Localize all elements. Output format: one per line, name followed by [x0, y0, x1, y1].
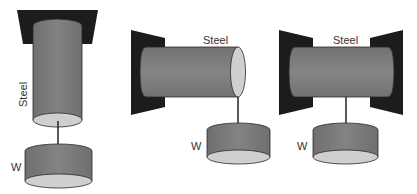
diagram-canvas: Steel W Steel W Steel W [0, 0, 417, 194]
weight-label: W [191, 140, 202, 152]
steel-rod-vertical [33, 19, 82, 120]
weight-label: W [297, 140, 308, 152]
weight-bottom [207, 150, 270, 164]
steel-label: Steel [333, 34, 358, 46]
figure-fixed-both-ends: Steel W [279, 30, 403, 164]
figure-cantilever: Steel W [131, 30, 270, 164]
weight-label: W [11, 161, 22, 173]
steel-label: Steel [17, 82, 29, 107]
weight-bottom [25, 174, 92, 188]
steel-rod-horizontal [289, 47, 394, 97]
steel-rod-end [231, 47, 246, 97]
figure-vertical-hanging: Steel W [11, 10, 98, 188]
steel-label: Steel [203, 34, 228, 46]
weight-bottom [313, 150, 378, 164]
steel-rod-horizontal [140, 47, 238, 97]
